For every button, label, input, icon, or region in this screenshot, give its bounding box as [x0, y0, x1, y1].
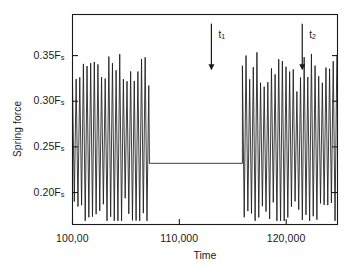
data-line: [73, 52, 337, 221]
y-tick-label-0p35: 0.35Fs: [34, 49, 65, 62]
x-tick-label-110000: 110,000: [160, 232, 198, 244]
y-tick-label-subscript: s: [61, 144, 65, 153]
y-tick-label-0p2: 0.20Fs: [34, 186, 65, 199]
y-tick-label-subscript: s: [61, 53, 65, 62]
y-tick-label-value: 0.20F: [34, 186, 61, 198]
annotation-label-subscript: 1: [221, 33, 225, 40]
y-tick-label-value: 0.35F: [34, 49, 61, 61]
y-tick-label-0p3: 0.30Fs: [34, 94, 65, 107]
y-tick-label-value: 0.30F: [34, 94, 61, 106]
annotation-label-t2: t2: [309, 29, 316, 40]
y-tick-label-value: 0.25F: [34, 140, 61, 152]
x-axis-title: Time: [194, 249, 217, 261]
y-tick-label-0p25: 0.25Fs: [34, 140, 65, 153]
annotation-label-subscript: 2: [312, 33, 316, 40]
annotation-label-t1: t1: [218, 29, 225, 40]
x-tick-label-120000: 120,000: [267, 232, 306, 244]
figure-container: Spring force 0.35Fs0.30Fs0.25Fs0.20Fs 10…: [0, 0, 350, 269]
spring-force-plot: [0, 0, 350, 269]
x-tick-label-100000: 100,00: [56, 232, 89, 244]
y-tick-label-subscript: s: [61, 99, 65, 108]
y-axis-title: Spring force: [12, 101, 23, 157]
y-tick-label-subscript: s: [61, 190, 65, 199]
